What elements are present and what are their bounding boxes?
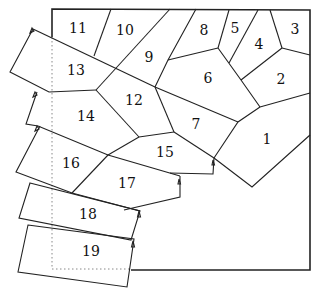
piece-label-16: 16	[62, 155, 80, 171]
dissection-diagram: 12345678910111213141516171819	[0, 0, 319, 302]
piece-label-3: 3	[291, 21, 300, 37]
piece-label-14: 14	[77, 108, 95, 124]
piece-label-10: 10	[116, 22, 134, 38]
piece-19-outline	[18, 225, 135, 287]
piece-13-outline	[10, 28, 96, 92]
piece-label-17: 17	[118, 175, 136, 191]
piece-label-5: 5	[231, 20, 240, 36]
original-square-outline	[52, 37, 131, 269]
piece-label-6: 6	[204, 70, 213, 86]
piece-label-19: 19	[82, 243, 100, 259]
piece-label-7: 7	[192, 116, 201, 132]
piece-label-18: 18	[79, 206, 97, 222]
piece-label-12: 12	[125, 92, 143, 108]
piece-label-9: 9	[145, 49, 154, 65]
piece-label-4: 4	[255, 36, 264, 52]
piece-label-11: 11	[69, 20, 87, 36]
piece-label-15: 15	[156, 144, 174, 160]
piece-labels: 12345678910111213141516171819	[62, 20, 299, 259]
piece-label-2: 2	[277, 71, 286, 87]
piece-label-1: 1	[263, 131, 272, 147]
piece-label-13: 13	[67, 62, 85, 78]
piece-label-8: 8	[200, 22, 209, 38]
